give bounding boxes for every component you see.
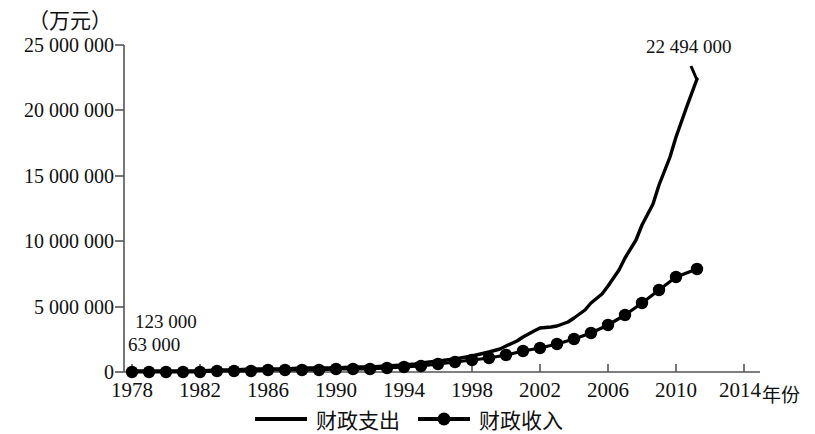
data-point-revenue — [381, 362, 393, 374]
x-tick-label: 1994 — [383, 378, 425, 403]
data-point-revenue — [330, 363, 342, 375]
data-point-revenue — [228, 365, 240, 377]
data-point-revenue — [551, 338, 563, 350]
data-point-revenue — [143, 366, 155, 378]
legend-label-revenue: 财政收入 — [479, 404, 563, 434]
data-point-revenue — [585, 327, 597, 339]
data-point-revenue — [160, 366, 172, 378]
x-tick-label: 2002 — [519, 378, 561, 403]
legend-swatch-line-icon — [253, 411, 309, 427]
data-point-revenue — [245, 365, 257, 377]
x-tick-label: 2006 — [587, 378, 629, 403]
x-tick-label: 1998 — [451, 378, 493, 403]
x-axis-title: 年份 — [762, 380, 800, 407]
data-point-revenue — [211, 365, 223, 377]
annotation-leader-line — [691, 66, 697, 80]
plot-area — [0, 0, 815, 434]
x-tick-label: 2010 — [655, 378, 697, 403]
fiscal-line-chart: （万元） 0 5 000 000 10 000 000 15 000 000 2… — [0, 0, 815, 434]
data-point-revenue — [279, 364, 291, 376]
data-point-revenue — [691, 263, 703, 275]
x-tick-label: 2014 — [719, 378, 761, 403]
chart-legend: 财政支出 财政收入 — [0, 404, 815, 434]
legend-swatch-line-marker-icon — [416, 411, 472, 427]
data-point-revenue — [296, 364, 308, 376]
annotation-revenue-start: 63 000 — [128, 334, 180, 356]
annotation-peak-value: 22 494 000 — [646, 36, 732, 58]
data-point-revenue — [449, 356, 461, 368]
x-tick-label: 1990 — [315, 378, 357, 403]
data-point-revenue — [619, 309, 631, 321]
data-point-revenue — [398, 361, 410, 373]
data-point-revenue — [500, 349, 512, 361]
x-tick-label: 1982 — [179, 378, 221, 403]
x-tick-label: 1978 — [111, 378, 153, 403]
annotation-expenditure-start: 123 000 — [135, 311, 197, 333]
legend-item-revenue: 财政收入 — [416, 404, 563, 434]
data-point-revenue — [364, 363, 376, 375]
legend-item-expenditure: 财政支出 — [253, 404, 400, 434]
data-point-revenue — [194, 366, 206, 378]
data-point-revenue — [636, 297, 648, 309]
data-point-revenue — [432, 358, 444, 370]
legend-label-expenditure: 财政支出 — [316, 404, 400, 434]
data-point-revenue — [602, 319, 614, 331]
x-tick-label: 1986 — [247, 378, 289, 403]
data-point-revenue — [313, 364, 325, 376]
data-point-revenue — [262, 364, 274, 376]
data-point-revenue — [534, 342, 546, 354]
data-point-revenue — [126, 366, 138, 378]
data-point-revenue — [466, 354, 478, 366]
y-axis-ticks — [115, 45, 124, 372]
data-point-revenue — [653, 284, 665, 296]
data-point-revenue — [670, 271, 682, 283]
data-point-revenue — [347, 363, 359, 375]
data-point-revenue — [177, 366, 189, 378]
data-point-revenue — [517, 345, 529, 357]
data-point-revenue — [415, 360, 427, 372]
data-point-revenue — [483, 352, 495, 364]
data-point-revenue — [568, 333, 580, 345]
